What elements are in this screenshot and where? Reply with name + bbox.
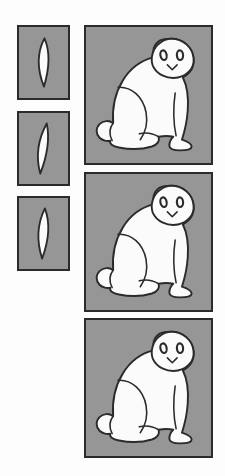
cat-right-eye-icon [177, 197, 184, 207]
figure-root [0, 0, 225, 476]
lens-shape-1-svg [19, 27, 68, 98]
lens-leaf-icon [39, 38, 49, 86]
cat-right-eye-icon [177, 50, 184, 60]
cat-left-eye-icon [159, 50, 167, 61]
lens-leaf-icon [39, 208, 49, 258]
small-panel-2 [17, 111, 70, 186]
cat-figure-3-svg [86, 320, 211, 456]
small-panel-1 [17, 25, 70, 100]
cat-figure [97, 332, 194, 444]
cat-panel-1 [84, 25, 213, 165]
cat-right-eye-icon [177, 343, 184, 353]
cat-figure [97, 186, 194, 298]
lens-shape-3-svg [19, 198, 68, 269]
cat-left-eye-icon [159, 197, 167, 208]
small-panel-3 [17, 196, 70, 271]
lens-leaf-icon [38, 123, 48, 173]
cat-head-outline [152, 186, 194, 225]
lens-shape-2-svg [19, 113, 68, 184]
cat-panel-2 [84, 172, 213, 312]
cat-figure [97, 39, 194, 151]
cat-panel-3 [84, 318, 213, 458]
cat-figure-1-svg [86, 27, 211, 163]
cat-left-eye-icon [159, 343, 167, 354]
cat-figure-2-svg [86, 174, 211, 310]
cat-head-outline [152, 39, 194, 78]
cat-head-outline [152, 332, 194, 371]
